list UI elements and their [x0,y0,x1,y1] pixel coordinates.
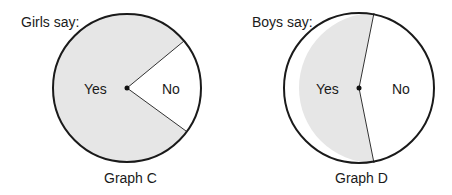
graph-c-title: Girls say: [21,14,79,30]
graph-d-yes-label: Yes [316,81,339,97]
graph-d-center-dot [357,86,362,91]
graph-c-no-label: No [162,81,180,97]
graph-c-yes-label: Yes [84,81,107,97]
graph-d-no-label: No [392,81,410,97]
graph-d-caption: Graph D [335,170,388,186]
graph-c-caption: Graph C [104,170,157,186]
graph-d-title: Boys say: [252,14,313,30]
graph-c-center-dot [125,86,130,91]
graph-d-pie [284,13,434,163]
